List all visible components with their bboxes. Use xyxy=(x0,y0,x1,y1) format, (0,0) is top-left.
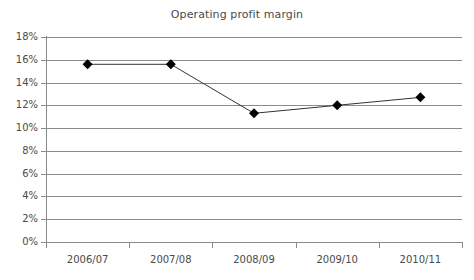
data-point-marker xyxy=(415,92,425,102)
data-point-marker xyxy=(166,59,176,69)
data-point-marker xyxy=(249,108,259,118)
operating-profit-margin-chart: Operating profit margin 0%2%4%6%8%10%12%… xyxy=(0,0,474,280)
data-point-marker xyxy=(83,59,93,69)
series-line xyxy=(88,64,421,113)
data-point-marker xyxy=(332,100,342,110)
series-markers xyxy=(83,59,426,118)
data-series-layer xyxy=(0,0,474,280)
